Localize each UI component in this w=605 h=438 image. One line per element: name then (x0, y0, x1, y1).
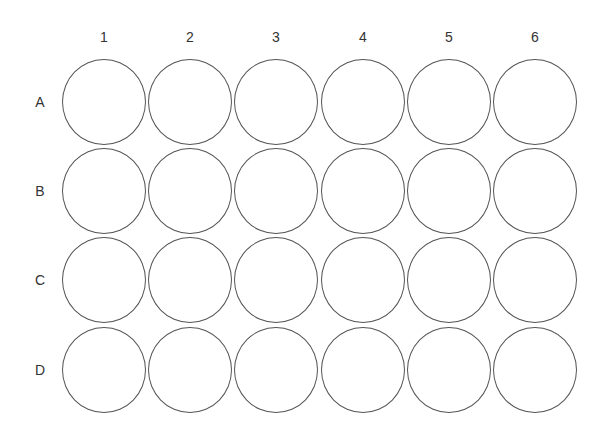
well-b2 (148, 148, 232, 234)
row-label-a: A (35, 94, 44, 110)
well-d1 (62, 327, 146, 413)
column-label-2: 2 (186, 29, 194, 45)
well-d6 (493, 327, 577, 413)
column-label-3: 3 (272, 29, 280, 45)
well-d5 (407, 327, 491, 413)
column-label-1: 1 (100, 29, 108, 45)
well-a4 (321, 59, 405, 145)
well-d4 (321, 327, 405, 413)
well-c6 (493, 237, 577, 323)
well-a5 (407, 59, 491, 145)
row-label-b: B (35, 183, 44, 199)
well-a6 (493, 59, 577, 145)
row-label-c: C (35, 272, 45, 288)
column-label-4: 4 (359, 29, 367, 45)
well-c5 (407, 237, 491, 323)
well-d3 (234, 327, 318, 413)
well-b1 (62, 148, 146, 234)
row-label-d: D (35, 362, 45, 378)
well-plate-diagram: 1 2 3 4 5 6 A B C D (0, 0, 605, 438)
well-b5 (407, 148, 491, 234)
well-d2 (148, 327, 232, 413)
column-label-5: 5 (445, 29, 453, 45)
well-a1 (62, 59, 146, 145)
well-b3 (234, 148, 318, 234)
well-a3 (234, 59, 318, 145)
well-c2 (148, 237, 232, 323)
well-a2 (148, 59, 232, 145)
column-label-6: 6 (531, 29, 539, 45)
well-b4 (321, 148, 405, 234)
well-c4 (321, 237, 405, 323)
well-c1 (62, 237, 146, 323)
well-c3 (234, 237, 318, 323)
well-b6 (493, 148, 577, 234)
